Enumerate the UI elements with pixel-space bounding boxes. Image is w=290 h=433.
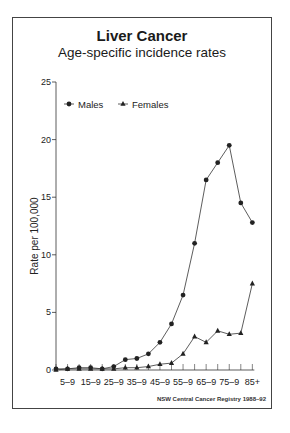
x-tick-label: 75–9 (219, 377, 239, 387)
male-point-marker (123, 357, 128, 362)
female-point-marker (157, 361, 162, 366)
female-point-marker (215, 328, 220, 333)
y-tick-label: 15 (41, 192, 51, 202)
y-tick-label: 20 (41, 135, 51, 145)
line-chart: 05101520255–915–925–935–945–955–965–975–… (0, 0, 290, 433)
x-tick-label: 25–9 (104, 377, 124, 387)
x-tick-label: 35–9 (127, 377, 147, 387)
female-point-marker (123, 365, 128, 370)
legend-females-marker (120, 101, 125, 106)
male-point-marker (204, 178, 209, 183)
x-tick-label: 85+ (245, 377, 260, 387)
females-line (56, 284, 252, 370)
male-point-marker (158, 340, 163, 345)
male-point-marker (215, 160, 220, 165)
x-tick-label: 15–9 (81, 377, 101, 387)
male-point-marker (134, 356, 139, 361)
legend-males-label: Males (78, 99, 104, 110)
x-tick-label: 5–9 (60, 377, 75, 387)
y-axis-title: Rate per 100,000 (29, 197, 40, 275)
x-tick-label: 45–9 (150, 377, 170, 387)
legend-females-label: Females (132, 99, 169, 110)
male-point-marker (169, 322, 174, 327)
female-point-marker (169, 360, 174, 365)
males-line (56, 145, 252, 368)
male-point-marker (250, 220, 255, 225)
male-point-marker (192, 241, 197, 246)
female-point-marker (238, 330, 243, 335)
y-tick-label: 10 (41, 250, 51, 260)
male-point-marker (238, 201, 243, 206)
male-point-marker (146, 351, 151, 356)
female-point-marker (134, 365, 139, 370)
y-tick-label: 25 (41, 77, 51, 87)
male-point-marker (227, 143, 232, 148)
legend-males-marker (67, 102, 72, 107)
x-tick-label: 55–9 (173, 377, 193, 387)
x-tick-label: 65–9 (196, 377, 216, 387)
female-point-marker (192, 334, 197, 339)
male-point-marker (181, 293, 186, 298)
y-tick-label: 5 (46, 307, 51, 317)
y-tick-label: 0 (46, 365, 51, 375)
female-point-marker (250, 281, 255, 286)
